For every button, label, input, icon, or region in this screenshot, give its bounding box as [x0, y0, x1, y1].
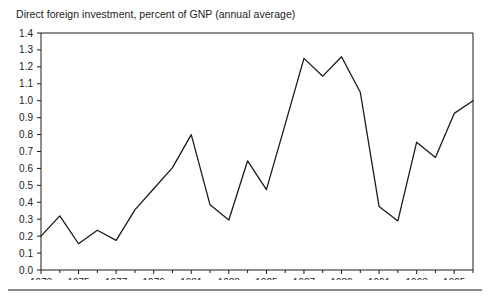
y-tick-label: 0.4: [19, 197, 33, 208]
x-axis: 1973197519771979198119831985198719891991…: [30, 270, 473, 280]
y-tick-label: 0.2: [19, 231, 33, 242]
y-tick-label: 1.2: [19, 61, 33, 72]
y-tick-label: 0.0: [19, 265, 33, 276]
series-line: [41, 57, 473, 244]
x-tick-label: 1989: [330, 277, 353, 280]
y-axis: 0.00.10.20.30.40.50.60.70.80.91.01.11.21…: [19, 28, 41, 276]
x-tick-label: 1991: [368, 277, 391, 280]
chart-figure: Direct foreign investment, percent of GN…: [0, 0, 490, 300]
y-tick-label: 1.0: [19, 95, 33, 106]
x-tick-label: 1983: [218, 277, 241, 280]
x-tick-label: 1993: [406, 277, 429, 280]
x-tick-label: 1987: [293, 277, 316, 280]
y-tick-label: 0.8: [19, 129, 33, 140]
y-tick-label: 0.5: [19, 180, 33, 191]
x-tick-label: 1985: [255, 277, 278, 280]
x-tick-label: 1981: [180, 277, 203, 280]
x-tick-label: 1973: [30, 277, 53, 280]
y-tick-label: 0.7: [19, 146, 33, 157]
y-tick-label: 1.4: [19, 28, 33, 39]
data-series-line: [41, 57, 473, 244]
y-tick-label: 0.1: [19, 248, 33, 259]
y-tick-label: 1.3: [19, 44, 33, 55]
x-tick-label: 1995: [443, 277, 466, 280]
x-tick-label: 1977: [105, 277, 128, 280]
y-tick-label: 0.9: [19, 112, 33, 123]
plot-area: 0.00.10.20.30.40.50.60.70.80.91.01.11.21…: [0, 22, 490, 280]
y-tick-label: 0.3: [19, 214, 33, 225]
y-tick-label: 0.6: [19, 163, 33, 174]
y-tick-label: 1.1: [19, 78, 33, 89]
x-tick-label: 1979: [143, 277, 166, 280]
x-tick-label: 1975: [67, 277, 90, 280]
chart-title: Direct foreign investment, percent of GN…: [16, 8, 295, 21]
footer-rule: [8, 289, 482, 291]
line-chart-svg: 0.00.10.20.30.40.50.60.70.80.91.01.11.21…: [0, 22, 490, 280]
